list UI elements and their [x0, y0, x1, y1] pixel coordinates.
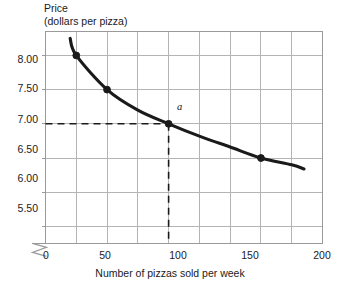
y-tick-label: 6.00: [4, 172, 38, 184]
plot-frame: [46, 32, 323, 244]
x-tick-label: 0: [26, 249, 66, 261]
y-tick-label: 7.00: [4, 113, 38, 125]
y-tick-label: 8.00: [4, 53, 38, 65]
plot-area: [0, 0, 340, 288]
data-point-marker: [73, 52, 80, 59]
chart-figure: Price (dollars per pizza) 8.00 7.50 7.00…: [0, 0, 340, 288]
data-point-marker: [258, 155, 265, 162]
y-axis-title-line2: (dollars per pizza): [44, 15, 127, 28]
x-tick-label: 100: [158, 249, 198, 261]
x-tick-label: 50: [85, 249, 125, 261]
y-axis-title-line1: Price: [44, 2, 127, 15]
y-tick-label: 6.50: [4, 143, 38, 155]
y-tick-label: 7.50: [4, 82, 38, 94]
x-tick-label: 200: [302, 249, 340, 261]
y-axis-title: Price (dollars per pizza): [44, 2, 127, 28]
data-point-label-a: a: [177, 101, 182, 112]
x-tick-label: 150: [230, 249, 270, 261]
x-axis-title: Number of pizzas sold per week: [0, 267, 340, 279]
demand-curve: [70, 38, 304, 169]
data-point-marker: [165, 120, 172, 127]
data-point-marker: [104, 86, 111, 93]
y-tick-label: 5.50: [4, 202, 38, 214]
